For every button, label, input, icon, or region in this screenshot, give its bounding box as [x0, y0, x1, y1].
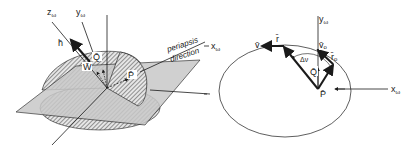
left-x-omega-label: xω	[211, 41, 221, 52]
w-vector-label: W̄	[83, 62, 92, 72]
h-vector-label: h̄	[58, 38, 63, 48]
delta-nu-label: Δν	[300, 56, 309, 63]
p-vector-label: P̄	[320, 89, 326, 99]
right-2d-orbit-figure: xω yω xω v̄ r̄ v̄o r̄o Δν Q̄ P̄	[204, 14, 401, 137]
y-omega-label: yω	[76, 7, 86, 18]
orbit-diagram: zω yω h̄ Q̄ W̄ P̄ periapsis direction xω	[0, 0, 408, 148]
x-omega-label: xω	[391, 84, 401, 95]
r0-vector-arrow	[318, 65, 333, 89]
p-vector-label: P̄	[128, 70, 134, 80]
r0-vector-label: r̄o	[330, 52, 338, 62]
q-vector-label: Q̄	[93, 52, 100, 62]
z-omega-label: zω	[47, 7, 57, 18]
v-vector-label: v̄	[255, 40, 260, 50]
r-vector-label: r̄	[275, 34, 279, 44]
q-vector-label: Q̄	[310, 67, 317, 77]
left-3d-orbit-figure: zω yω h̄ Q̄ W̄ P̄ periapsis direction	[16, 7, 210, 145]
y-omega-label: yω	[319, 14, 329, 25]
